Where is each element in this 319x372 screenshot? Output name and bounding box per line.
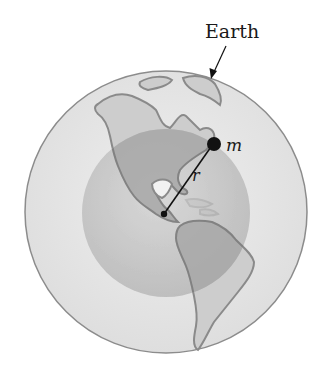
radius-label: r	[192, 166, 201, 185]
earth-diagram: m r Earth	[0, 0, 319, 372]
mass-label: m	[226, 135, 242, 155]
earth-label: Earth	[205, 20, 259, 42]
mass-point	[207, 137, 221, 151]
pointer-arrow	[214, 46, 226, 72]
center-point	[161, 211, 167, 217]
arrowhead-icon	[210, 68, 218, 79]
